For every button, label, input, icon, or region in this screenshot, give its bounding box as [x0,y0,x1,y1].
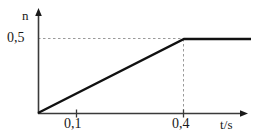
data-curve-n-of-t [38,39,251,113]
chart-figure: n t/s 0,5 0,1 0,4 [0,0,258,140]
y-axis-arrow-icon [35,8,42,16]
x-axis-tick-label-0-1: 0,1 [64,117,82,131]
x-axis-tick-label-0-4: 0,4 [172,117,190,131]
y-axis-title: n [22,9,29,22]
y-axis-tick-label-0-5: 0,5 [7,31,25,45]
x-axis-title: t/s [220,118,233,131]
x-axis-arrow-icon [240,110,248,117]
